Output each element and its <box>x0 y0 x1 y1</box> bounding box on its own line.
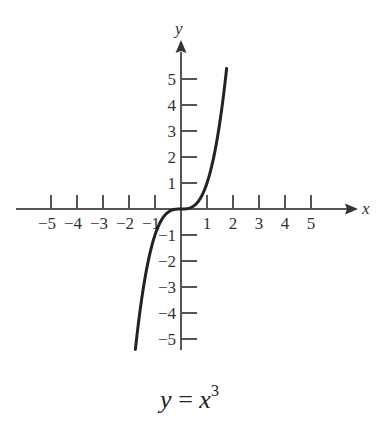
y-axis-label: y <box>173 19 183 38</box>
equation-exponent: 3 <box>211 382 219 399</box>
y-tick-label: −5 <box>158 330 176 349</box>
y-tick-label: −2 <box>158 252 176 271</box>
x-tick-label: −3 <box>90 214 108 233</box>
y-tick-label: 2 <box>168 148 177 167</box>
y-tick-label: 4 <box>168 96 177 115</box>
x-tick-label: 1 <box>203 214 212 233</box>
x-tick-label: 5 <box>307 214 316 233</box>
y-tick-label: −1 <box>158 226 176 245</box>
equation-equals: = <box>178 385 193 414</box>
x-tick-label: 4 <box>281 214 290 233</box>
x-axis-label: x <box>361 199 370 218</box>
x-tick-label: 3 <box>255 214 264 233</box>
x-tick-label: −2 <box>116 214 134 233</box>
x-tick-label: −4 <box>64 214 83 233</box>
y-axis-arrow-icon <box>176 40 187 53</box>
equation-base: x <box>199 385 211 414</box>
equation-caption: y = x3 <box>0 382 379 415</box>
y-tick-label: 1 <box>168 174 177 193</box>
x-tick-label: −5 <box>38 214 56 233</box>
y-tick-label: −3 <box>158 278 176 297</box>
y-tick-label: −4 <box>158 304 177 323</box>
x-ticks: −5−4−3−2−112345 <box>38 195 315 233</box>
equation-lhs: y <box>160 385 172 414</box>
y-tick-label: 5 <box>168 70 177 89</box>
cubic-function-chart: x y −5−4−3−2−112345 −5−4−3−2−112345 <box>0 0 379 427</box>
y-tick-label: 3 <box>168 122 177 141</box>
x-tick-label: 2 <box>229 214 238 233</box>
